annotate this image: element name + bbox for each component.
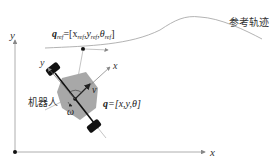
omega-label: ω xyxy=(67,106,74,117)
robot-state-label: q=[x,y,θ] xyxy=(103,98,141,109)
reference-state-label: qref=[xref,yref,θref] xyxy=(52,28,115,40)
robot-x-label: x xyxy=(112,60,118,71)
world-y-label: y xyxy=(9,29,15,41)
reference-trajectory-label: 参考轨迹 xyxy=(229,16,269,28)
world-axes: y x xyxy=(9,29,215,158)
diagram-canvas: y x 参考轨迹 qref=[xref,yref,θref] xyxy=(0,0,277,164)
reference-heading-arrow xyxy=(85,49,108,50)
velocity-label: v xyxy=(92,84,97,95)
axle-extension xyxy=(98,128,106,138)
robot-right-wheel xyxy=(86,119,102,134)
robot-label: 机器人 xyxy=(28,96,58,108)
origin-dot xyxy=(13,150,17,154)
robot-y-label: y xyxy=(39,57,45,68)
world-x-label: x xyxy=(209,146,215,158)
